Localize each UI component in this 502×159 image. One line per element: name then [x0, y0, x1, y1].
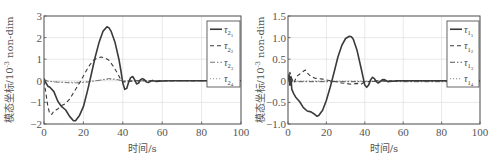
x-tick-label: 40: [117, 126, 129, 138]
y-axis-label: 模态坐标/10-3 non-dim: [254, 16, 266, 123]
x-tick-label: 20: [321, 126, 333, 138]
x-tick-label: 60: [157, 126, 169, 138]
x-tick-label: 0: [41, 126, 47, 138]
y-tick-label: 0: [37, 75, 43, 87]
chart-panel-left: 020406080100−2−10123时间/s模态坐标/10-3 non-di…: [0, 0, 251, 159]
y-tick-label: 1.0: [272, 32, 286, 44]
x-axis-label: 时间/s: [128, 142, 157, 154]
x-tick-label: 80: [436, 126, 448, 138]
y-tick-label: −0.5: [266, 96, 286, 108]
line-chart-modal-coordinates-tau1: 020406080100−1.0−0.500.51.01.5时间/s模态坐标/1…: [251, 0, 502, 159]
x-tick-label: 100: [233, 126, 250, 138]
x-tick-label: 20: [78, 126, 90, 138]
y-tick-label: 0: [281, 75, 287, 87]
x-axis-label: 时间/s: [370, 142, 399, 154]
x-tick-label: 0: [285, 126, 291, 138]
y-tick-label: 3: [37, 10, 43, 22]
y-tick-label: 0.5: [272, 53, 286, 65]
x-tick-label: 40: [359, 126, 371, 138]
x-tick-label: 80: [196, 126, 208, 138]
y-tick-label: −2: [30, 118, 42, 130]
y-tick-label: −1.0: [266, 118, 286, 130]
line-chart-modal-coordinates-tau2: 020406080100−2−10123时间/s模态坐标/10-3 non-di…: [0, 0, 251, 159]
legend: τ21τ22τ23τ24: [207, 21, 240, 87]
x-tick-label: 60: [398, 126, 410, 138]
legend: τ11τ12τ13τ14: [447, 21, 479, 87]
y-tick-label: 1: [37, 53, 43, 65]
y-tick-label: −1: [30, 96, 42, 108]
x-tick-label: 100: [472, 126, 489, 138]
y-axis-label: 模态坐标/10-3 non-dim: [3, 16, 15, 123]
chart-panel-right: 020406080100−1.0−0.500.51.01.5时间/s模态坐标/1…: [251, 0, 502, 159]
y-tick-label: 2: [37, 32, 43, 44]
y-tick-label: 1.5: [272, 10, 286, 22]
